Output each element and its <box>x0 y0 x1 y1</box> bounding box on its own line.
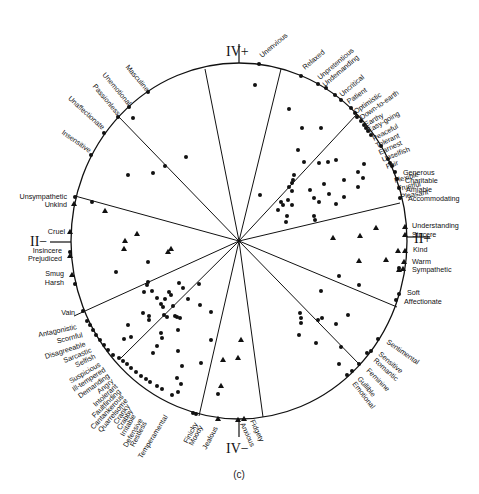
sector-line <box>199 241 239 416</box>
rim-dot-marker <box>106 348 110 352</box>
adjective-label: Accommodating <box>408 194 460 203</box>
data-point-dot-marker <box>126 323 130 327</box>
sector-line <box>118 116 239 241</box>
data-point-dot-marker <box>317 161 321 165</box>
adjective-label: Prejudiced <box>28 254 62 263</box>
adjective-label: Soft <box>407 288 420 297</box>
rim-dot-marker <box>73 195 77 199</box>
data-point-dot-marker <box>163 297 167 301</box>
rim-dot-marker <box>129 366 133 370</box>
data-point-dot-marker <box>317 200 321 204</box>
data-point-dot-marker <box>186 297 190 301</box>
rim-dot-marker <box>88 323 92 327</box>
data-point-triangle-marker <box>134 231 140 236</box>
data-point-dot-marker <box>163 164 167 168</box>
data-point-dot-marker <box>297 333 301 337</box>
rim-dot-marker <box>365 351 369 355</box>
axis-label: IV− <box>226 441 249 456</box>
rim-dot-marker <box>369 349 373 353</box>
adjective-label: Harsh <box>45 278 64 287</box>
data-point-dot-marker <box>178 316 182 320</box>
data-point-dot-marker <box>150 289 154 293</box>
rim-dot-marker <box>170 393 174 397</box>
data-point-dot-marker <box>296 148 300 152</box>
rim-dot-marker <box>102 131 106 135</box>
rim-dot-marker <box>98 338 102 342</box>
adjective-label: Sympathetic <box>412 265 452 274</box>
data-point-dot-marker <box>322 182 326 186</box>
data-point-dot-marker <box>342 178 346 182</box>
data-point-dot-marker <box>155 344 159 348</box>
adjective-label: Cruel <box>48 227 66 236</box>
data-point-dot-marker <box>319 289 323 293</box>
data-point-dot-marker <box>319 126 323 130</box>
rim-dot-marker <box>376 337 380 341</box>
data-point-triangle-marker <box>238 337 244 342</box>
sector-line <box>239 241 263 417</box>
data-point-dot-marker <box>337 274 341 278</box>
data-point-dot-marker <box>176 349 180 353</box>
data-point-dot-marker <box>287 185 291 189</box>
data-point-dot-marker <box>290 189 294 193</box>
data-point-dot-marker <box>209 338 213 342</box>
rim-dot-marker <box>125 362 129 366</box>
data-point-dot-marker <box>179 382 183 386</box>
data-point-dot-marker <box>151 171 155 175</box>
adjective-label: Smug <box>45 269 64 278</box>
data-point-triangle-marker <box>121 246 127 251</box>
data-point-dot-marker <box>176 390 180 394</box>
rim-dot-marker <box>148 380 152 384</box>
figure-caption: (c) <box>233 469 245 480</box>
adjective-label: Insensitive <box>60 128 93 155</box>
data-point-dot-marker <box>165 315 169 319</box>
rim-dot-marker <box>155 384 159 388</box>
data-point-dot-marker <box>147 314 151 318</box>
data-point-dot-marker <box>141 311 145 315</box>
data-point-dot-marker <box>313 218 317 222</box>
data-point-dot-marker <box>339 345 343 349</box>
data-point-dot-marker <box>199 361 203 365</box>
data-point-dot-marker <box>314 341 318 345</box>
rim-dot-marker <box>134 370 138 374</box>
data-point-dot-marker <box>155 296 159 300</box>
data-point-dot-marker <box>147 318 151 322</box>
data-point-dot-marker <box>131 116 135 120</box>
data-point-dot-marker <box>122 337 126 341</box>
data-point-dot-marker <box>357 283 361 287</box>
data-point-dot-marker <box>198 303 202 307</box>
data-point-dot-marker <box>327 192 331 196</box>
sector-line <box>74 241 239 316</box>
adjective-label: Amiable <box>406 185 432 194</box>
data-point-triangle-marker <box>102 208 108 213</box>
rim-triangle-marker <box>71 201 77 206</box>
data-point-dot-marker <box>337 362 341 366</box>
data-point-triangle-marker <box>330 235 336 240</box>
data-point-dot-marker <box>180 364 184 368</box>
data-point-triangle-marker <box>218 383 224 388</box>
sector-line <box>75 196 239 241</box>
rim-dot-marker <box>194 412 198 416</box>
rim-dot-marker <box>102 343 106 347</box>
adjective-label: Unenvious <box>258 31 290 60</box>
adjective-label: Masculine <box>124 63 152 94</box>
rim-dot-marker <box>357 362 361 366</box>
data-point-dot-marker <box>171 304 175 308</box>
rim-dot-marker <box>91 328 95 332</box>
data-point-dot-marker <box>146 260 150 264</box>
data-point-dot-marker <box>356 185 360 189</box>
data-point-dot-marker <box>320 316 324 320</box>
adjective-label: Vain <box>61 308 75 317</box>
data-point-dot-marker <box>334 202 338 206</box>
data-point-dot-marker <box>258 193 262 197</box>
data-point-dot-marker <box>176 328 180 332</box>
data-point-dot-marker <box>160 336 164 340</box>
rim-dot-marker <box>397 292 401 296</box>
data-point-dot-marker <box>302 160 306 164</box>
axis-label: II+ <box>414 231 431 246</box>
data-point-dot-marker <box>362 162 366 166</box>
sector-line <box>121 241 239 358</box>
data-point-dot-marker <box>326 160 330 164</box>
data-point-dot-marker <box>292 173 296 177</box>
rim-dot-marker <box>393 170 397 174</box>
data-point-dot-marker <box>90 200 94 204</box>
